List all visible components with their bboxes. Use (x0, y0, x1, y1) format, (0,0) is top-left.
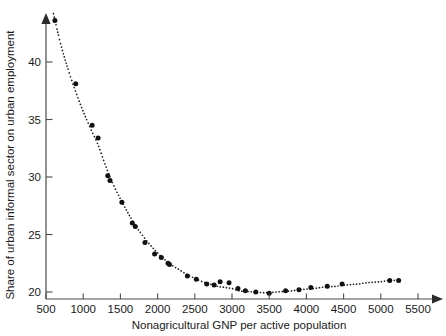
x-tick-label: 1000 (70, 303, 96, 315)
fit-curve-dot (55, 24, 57, 26)
x-tick-label: 5000 (368, 303, 394, 315)
fit-curve-dot (65, 62, 67, 64)
fit-curve-dot (63, 53, 65, 55)
fit-curve-dot (67, 68, 69, 70)
fit-curve-dot (210, 284, 212, 286)
fit-curve-dot (183, 272, 185, 274)
fit-curve-dot (337, 285, 339, 287)
x-axis-title: Nonagricultural GNP per active populatio… (132, 319, 347, 331)
x-tick-label: 1500 (108, 303, 134, 315)
fit-curve-dot (125, 209, 127, 211)
fit-curve-dot (94, 136, 96, 138)
y-tick-layer: 2025303540 (28, 56, 52, 298)
data-point-marker (90, 123, 95, 128)
y-axis-title: Share of urban informal sector on urban … (4, 30, 16, 300)
fit-curve-dot (73, 87, 75, 89)
fit-curve-dot (250, 291, 252, 293)
fit-curve-dot (139, 232, 141, 234)
y-tick-label: 30 (28, 171, 41, 183)
data-point-marker (253, 290, 258, 295)
fit-curve-dot (164, 259, 166, 261)
fit-curve-dot (81, 107, 83, 109)
fit-curve-dot (356, 283, 358, 285)
data-point-marker (105, 173, 110, 178)
fit-curve-dot (58, 34, 60, 36)
fit-curve-dot (359, 283, 361, 285)
fit-curve-dot (77, 97, 79, 99)
fit-curve-dot (150, 245, 152, 247)
fit-curve-dot (53, 13, 55, 15)
fit-curve-dot (103, 160, 105, 162)
fit-curve-dot (315, 287, 317, 289)
fit-curve-dot (82, 110, 84, 112)
data-point-marker (387, 278, 392, 283)
fit-curve-dot (87, 122, 89, 124)
data-point-marker (227, 280, 232, 285)
fit-curve-dot (78, 100, 80, 102)
fit-curve-dot (70, 76, 72, 78)
fit-curve-dot (127, 212, 129, 214)
fit-curve-dot (113, 185, 115, 187)
fit-curve-dot (142, 234, 144, 236)
fit-curve-dot (124, 206, 126, 208)
fit-curve-dot (90, 129, 92, 131)
data-point-marker (119, 200, 124, 205)
fit-curve-dot (98, 146, 100, 148)
fit-curve-dot (85, 116, 87, 118)
data-point-marker (159, 255, 164, 260)
fit-curve-dot (192, 276, 194, 278)
x-tick-label: 3000 (219, 303, 245, 315)
y-axis-arrow-icon (41, 13, 50, 24)
data-point-marker (235, 286, 240, 291)
fit-curve-dot (365, 282, 367, 284)
x-tick-label: 2000 (145, 303, 171, 315)
fit-curve-dot (281, 291, 283, 293)
fit-curve-dot (115, 188, 117, 190)
fit-curve-dot (175, 267, 177, 269)
fit-curve-dot (178, 268, 180, 270)
fit-curve-dot (303, 288, 305, 290)
fit-curve-dot (68, 72, 70, 74)
axes-layer (41, 13, 443, 304)
fit-curve-dot (71, 80, 73, 82)
fit-curve-dot (56, 28, 58, 30)
fit-curve-dot (57, 31, 59, 33)
fit-curve-dot (100, 152, 102, 154)
fit-curve-dot (104, 163, 106, 165)
y-tick-label: 40 (28, 56, 41, 68)
fit-curve-dot (116, 191, 118, 193)
y-tick-label: 25 (28, 229, 41, 241)
fit-curve-dot (260, 292, 262, 294)
fit-curve-dot (105, 166, 107, 168)
chart-figure: 5001000150020002500300035004000450050005… (0, 0, 446, 336)
fit-curve-dot (334, 286, 336, 288)
fit-curve-dot (229, 287, 231, 289)
fit-curve-dot (59, 39, 61, 41)
data-point-marker (152, 252, 157, 257)
fit-curve-dot (172, 265, 174, 267)
fit-curve-dot (66, 65, 68, 67)
data-point-marker (204, 281, 209, 286)
data-point-marker (218, 279, 223, 284)
fit-curve-dot (99, 149, 101, 151)
fit-curve-dot (226, 287, 228, 289)
data-point-marker (283, 288, 288, 293)
fit-curve-dot (219, 286, 221, 288)
data-point-marker (52, 18, 57, 23)
fit-curve-dot (371, 281, 373, 283)
fit-curve-dot (53, 16, 55, 18)
data-point-marker (185, 273, 190, 278)
fit-curve-dot (291, 290, 293, 292)
x-tick-layer: 5001000150020002500300035004000450050005… (36, 294, 430, 316)
fit-curve-dot (76, 94, 78, 96)
fit-curve-dot (63, 56, 65, 58)
data-point-marker (167, 262, 172, 267)
fit-curve-dot (319, 287, 321, 289)
fit-curve-dot (148, 243, 150, 245)
fit-curve-dot (263, 292, 265, 294)
fit-curve-dot (75, 90, 77, 92)
data-point-marker (325, 284, 330, 289)
y-tick-label: 35 (28, 114, 41, 126)
scatter-plot-canvas: 5001000150020002500300035004000450050005… (0, 0, 446, 336)
data-point-marker (96, 135, 101, 140)
